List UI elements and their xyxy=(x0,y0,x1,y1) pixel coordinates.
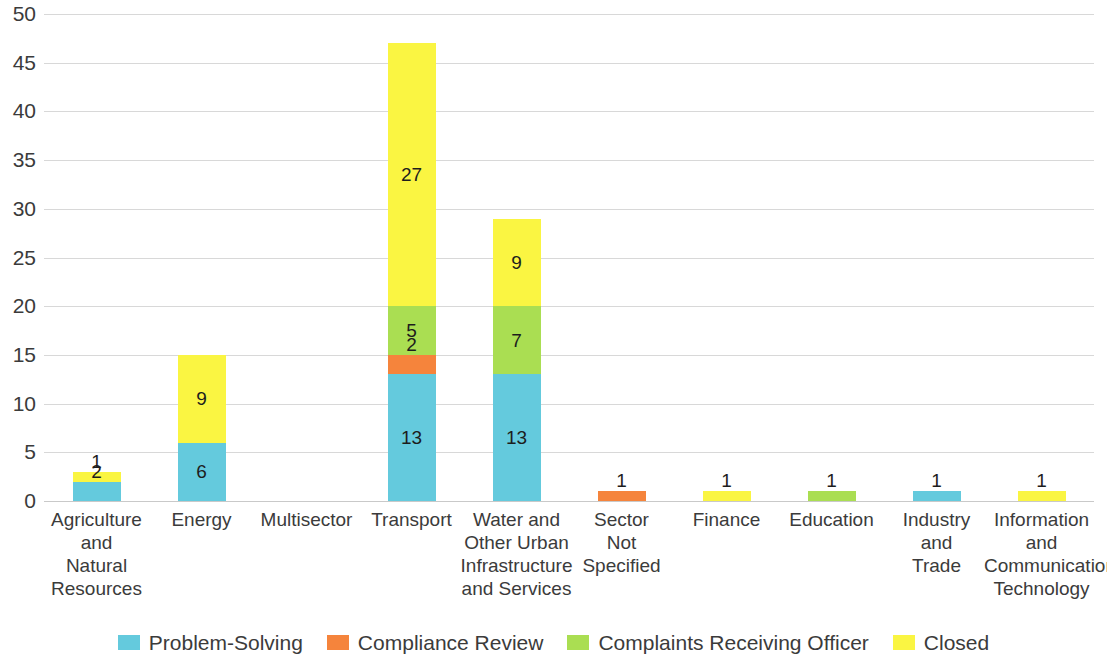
y-tick-label: 25 xyxy=(0,247,36,268)
bar-segment[interactable]: 1 xyxy=(808,491,856,501)
bar-value-label: 1 xyxy=(913,471,961,490)
bar-segment[interactable]: 1 xyxy=(1018,491,1066,501)
bar-segment[interactable]: 9 xyxy=(493,219,541,307)
bar-segment[interactable]: 7 xyxy=(493,306,541,374)
y-tick-label: 35 xyxy=(0,149,36,170)
x-axis-label-line: Resources xyxy=(39,577,154,600)
bar-group[interactable]: 96 xyxy=(149,355,254,501)
x-axis-label-line: Transport xyxy=(354,508,469,531)
bar-segment[interactable]: 6 xyxy=(178,443,226,501)
bar-value-label: 6 xyxy=(196,462,207,481)
stacked-bar[interactable]: 1 xyxy=(913,491,961,501)
x-axis-label-line: and xyxy=(39,531,154,554)
stacked-bar[interactable]: 275213 xyxy=(388,43,436,501)
x-axis-label-line: and Services xyxy=(459,577,574,600)
plot-area: 05101520253035404550 1296275213971311111 xyxy=(0,0,1107,512)
x-axis-label-line: Water and xyxy=(459,508,574,531)
bar-segment[interactable]: 13 xyxy=(493,374,541,501)
x-axis-label-line: Specified xyxy=(564,554,679,577)
bar-group[interactable]: 1 xyxy=(989,491,1094,501)
legend-item[interactable]: Compliance Review xyxy=(327,632,544,653)
x-axis-label-line: Information xyxy=(984,508,1099,531)
legend-label: Closed xyxy=(924,632,989,653)
bar-series-container: 1296275213971311111 xyxy=(44,0,1094,502)
legend-swatch xyxy=(567,635,589,650)
stacked-bar[interactable]: 1 xyxy=(1018,491,1066,501)
y-tick-label: 0 xyxy=(0,490,36,511)
x-axis-label-line: Infrastructure xyxy=(459,554,574,577)
legend-item[interactable]: Closed xyxy=(893,632,989,653)
legend-item[interactable]: Complaints Receiving Officer xyxy=(567,632,868,653)
x-axis-label: AgricultureandNaturalResources xyxy=(39,508,154,600)
bar-value-label: 1 xyxy=(703,471,751,490)
bar-value-label: 1 xyxy=(808,471,856,490)
y-tick-label: 45 xyxy=(0,52,36,73)
x-axis-label: InformationandCommunicationTechnology xyxy=(984,508,1099,600)
bar-segment[interactable]: 2 xyxy=(388,355,436,374)
bar-group[interactable]: 1 xyxy=(779,491,884,501)
x-axis-label-line: Trade xyxy=(879,554,994,577)
legend-swatch xyxy=(893,635,915,650)
x-axis-label: SectorNotSpecified xyxy=(564,508,679,577)
stacked-bar[interactable]: 96 xyxy=(178,355,226,501)
bar-value-label: 7 xyxy=(511,331,522,350)
legend-swatch xyxy=(327,635,349,650)
x-axis-label-line: Industry xyxy=(879,508,994,531)
bar-segment[interactable]: 1 xyxy=(703,491,751,501)
stacked-bar[interactable]: 12 xyxy=(73,472,121,501)
bar-value-label: 9 xyxy=(196,389,207,408)
legend: Problem-SolvingCompliance ReviewComplain… xyxy=(0,626,1107,659)
x-axis-label: Education xyxy=(774,508,889,531)
bar-value-label: 1 xyxy=(1018,471,1066,490)
y-tick-label: 30 xyxy=(0,198,36,219)
stacked-bar[interactable]: 1 xyxy=(703,491,751,501)
legend-label: Complaints Receiving Officer xyxy=(598,632,868,653)
x-axis-label-line: Other Urban xyxy=(459,531,574,554)
bar-segment[interactable]: 13 xyxy=(388,374,436,501)
x-axis-label-line: Sector xyxy=(564,508,679,531)
legend-label: Compliance Review xyxy=(358,632,544,653)
legend-label: Problem-Solving xyxy=(149,632,303,653)
x-axis-label-line: Communication xyxy=(984,554,1099,577)
bar-segment[interactable]: 1 xyxy=(598,491,646,501)
x-axis-label: Water andOther UrbanInfrastructureand Se… xyxy=(459,508,574,600)
stacked-bar[interactable]: 1 xyxy=(808,491,856,501)
bar-value-label: 1 xyxy=(598,471,646,490)
bar-segment[interactable]: 27 xyxy=(388,43,436,306)
bar-segment[interactable]: 1 xyxy=(913,491,961,501)
bar-group[interactable]: 12 xyxy=(44,472,149,501)
x-axis-label-line: Education xyxy=(774,508,889,531)
x-axis-label: Multisector xyxy=(249,508,364,531)
stacked-bar[interactable]: 1 xyxy=(598,491,646,501)
x-axis-label: Transport xyxy=(354,508,469,531)
y-tick-label: 40 xyxy=(0,100,36,121)
y-tick-label: 10 xyxy=(0,393,36,414)
x-axis-label-line: and xyxy=(984,531,1099,554)
bar-group[interactable]: 275213 xyxy=(359,43,464,501)
x-axis-label-line: Technology xyxy=(984,577,1099,600)
x-axis-label-line: Finance xyxy=(669,508,784,531)
bar-group[interactable]: 1 xyxy=(884,491,989,501)
bar-value-label: 13 xyxy=(506,428,527,447)
x-axis-label-line: Agriculture xyxy=(39,508,154,531)
bar-group[interactable]: 1 xyxy=(674,491,779,501)
bar-value-label: 9 xyxy=(511,253,522,272)
y-tick-label: 5 xyxy=(0,441,36,462)
x-axis-label-line: Not xyxy=(564,531,679,554)
y-tick-label: 15 xyxy=(0,344,36,365)
x-axis-label-line: Multisector xyxy=(249,508,364,531)
bar-group[interactable]: 1 xyxy=(569,491,674,501)
bar-value-label: 2 xyxy=(73,462,121,481)
bar-group[interactable]: 9713 xyxy=(464,219,569,501)
x-axis-labels: AgricultureandNaturalResourcesEnergyMult… xyxy=(44,508,1094,618)
stacked-bar[interactable]: 9713 xyxy=(493,219,541,501)
y-tick-label: 20 xyxy=(0,295,36,316)
legend-item[interactable]: Problem-Solving xyxy=(118,632,303,653)
bar-segment[interactable]: 9 xyxy=(178,355,226,443)
bar-segment[interactable]: 2 xyxy=(73,482,121,501)
x-axis-label-line: Natural xyxy=(39,554,154,577)
x-axis-label: Finance xyxy=(669,508,784,531)
y-tick-label: 50 xyxy=(0,3,36,24)
bar-value-label: 13 xyxy=(401,428,422,447)
chart-root: 05101520253035404550 1296275213971311111… xyxy=(0,0,1107,659)
